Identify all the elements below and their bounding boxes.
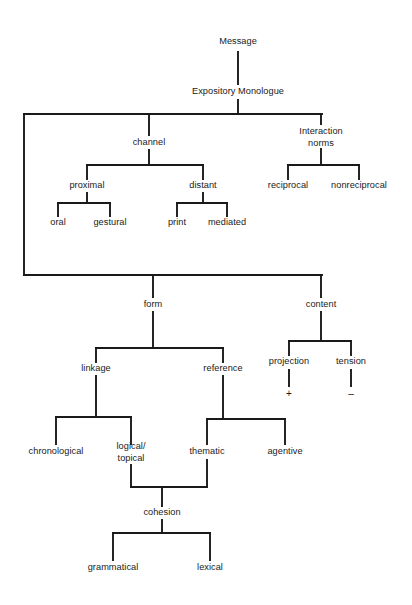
tree-node-oral: oral	[50, 217, 66, 229]
tree-node-content: content	[306, 299, 337, 311]
tree-node-message: Message	[219, 36, 257, 48]
tree-node-logical_topical: logical/ topical	[117, 441, 146, 464]
tree-node-thematic: thematic	[189, 446, 224, 458]
tree-node-gestural: gestural	[93, 217, 126, 229]
tree-node-form: form	[144, 299, 163, 311]
tree-node-linkage: linkage	[81, 363, 110, 375]
tree-node-cohesion: cohesion	[143, 507, 180, 519]
tree-node-interaction: Interaction norms	[299, 126, 342, 149]
tree-node-channel: channel	[133, 137, 166, 149]
tree-node-minus: –	[348, 389, 354, 399]
tree-node-distant: distant	[189, 180, 216, 192]
tree-node-reference: reference	[203, 363, 242, 375]
tree-node-agentive: agentive	[267, 446, 302, 458]
tree-node-chronological: chronological	[29, 446, 84, 458]
tree-node-proximal: proximal	[69, 180, 104, 192]
tree-node-nonreciprocal: nonreciprocal	[331, 180, 387, 192]
tree-node-expository: Expository Monologue	[192, 86, 284, 98]
tree-node-grammatical: grammatical	[88, 562, 139, 574]
tree-node-mediated: mediated	[208, 217, 246, 229]
tree-node-plus: +	[286, 389, 292, 399]
taxonomy-tree-diagram: MessageExpository MonologuechannelIntera…	[0, 0, 412, 605]
tree-node-lexical: lexical	[197, 562, 223, 574]
tree-node-reciprocal: reciprocal	[268, 180, 308, 192]
tree-node-tension: tension	[336, 356, 366, 368]
tree-node-projection: projection	[269, 356, 309, 368]
tree-node-print: print	[168, 217, 186, 229]
